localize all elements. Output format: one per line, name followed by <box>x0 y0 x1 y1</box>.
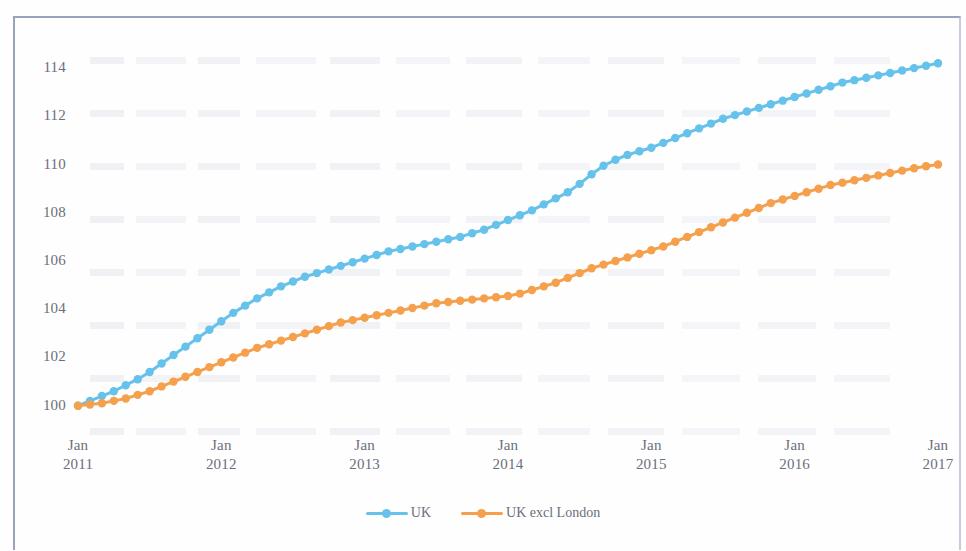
data-point-marker <box>779 195 787 203</box>
data-point-marker <box>468 229 476 237</box>
data-point-marker <box>623 151 631 159</box>
data-point-marker <box>360 313 368 321</box>
data-point-marker <box>540 200 548 208</box>
data-point-marker <box>444 235 452 243</box>
data-point-marker <box>301 273 309 281</box>
data-point-marker <box>396 245 404 253</box>
data-point-marker <box>205 363 213 371</box>
data-point-marker <box>145 368 153 376</box>
data-point-marker <box>145 387 153 395</box>
data-point-marker <box>671 238 679 246</box>
data-point-marker <box>74 402 82 410</box>
data-point-marker <box>325 322 333 330</box>
data-point-marker <box>313 326 321 334</box>
data-point-marker <box>874 171 882 179</box>
data-point-marker <box>826 181 834 189</box>
data-point-marker <box>767 199 775 207</box>
data-point-marker <box>731 111 739 119</box>
data-point-marker <box>480 294 488 302</box>
data-point-marker <box>910 164 918 172</box>
data-point-marker <box>98 392 106 400</box>
data-point-marker <box>468 295 476 303</box>
data-point-marker <box>241 301 249 309</box>
series-uk-excl-london <box>74 160 942 410</box>
data-point-marker <box>492 221 500 229</box>
plot-canvas <box>0 0 966 551</box>
data-point-marker <box>420 240 428 248</box>
data-point-marker <box>575 180 583 188</box>
data-point-marker <box>564 188 572 196</box>
data-point-marker <box>838 178 846 186</box>
data-point-marker <box>516 289 524 297</box>
data-point-marker <box>528 206 536 214</box>
data-point-marker <box>217 358 225 366</box>
data-point-marker <box>719 115 727 123</box>
data-point-marker <box>886 169 894 177</box>
data-point-marker <box>814 184 822 192</box>
data-point-marker <box>110 387 118 395</box>
data-point-marker <box>552 194 560 202</box>
data-point-marker <box>850 76 858 84</box>
data-point-marker <box>802 89 810 97</box>
data-point-marker <box>802 188 810 196</box>
data-point-marker <box>922 61 930 69</box>
data-point-marker <box>372 251 380 259</box>
data-point-marker <box>695 228 703 236</box>
data-point-marker <box>277 282 285 290</box>
data-point-marker <box>396 306 404 314</box>
line-chart: 100102104106108110112114 Jan2011Jan2012J… <box>0 0 966 551</box>
data-point-marker <box>384 309 392 317</box>
data-point-marker <box>432 238 440 246</box>
data-point-marker <box>337 318 345 326</box>
data-point-marker <box>408 242 416 250</box>
data-point-marker <box>504 292 512 300</box>
data-point-marker <box>707 223 715 231</box>
data-point-marker <box>635 250 643 258</box>
data-point-marker <box>540 282 548 290</box>
data-point-marker <box>337 262 345 270</box>
data-point-marker <box>253 294 261 302</box>
data-point-marker <box>767 100 775 108</box>
data-point-marker <box>934 59 942 67</box>
data-point-marker <box>611 257 619 265</box>
legend-item[interactable]: UK <box>366 505 431 521</box>
data-point-marker <box>157 382 165 390</box>
data-point-marker <box>695 124 703 132</box>
data-point-marker <box>134 375 142 383</box>
data-point-marker <box>743 209 751 217</box>
data-point-marker <box>862 74 870 82</box>
legend-line-swatch <box>366 506 408 520</box>
data-point-marker <box>731 213 739 221</box>
data-point-marker <box>707 119 715 127</box>
data-point-marker <box>169 377 177 385</box>
data-point-marker <box>432 299 440 307</box>
data-point-marker <box>599 162 607 170</box>
data-point-marker <box>528 286 536 294</box>
data-point-marker <box>253 344 261 352</box>
data-point-marker <box>289 333 297 341</box>
data-point-marker <box>575 269 583 277</box>
data-point-marker <box>289 277 297 285</box>
legend-marker-icon <box>382 509 391 518</box>
data-point-marker <box>552 279 560 287</box>
data-point-marker <box>886 69 894 77</box>
data-point-marker <box>898 66 906 74</box>
data-point-marker <box>755 204 763 212</box>
data-point-marker <box>193 334 201 342</box>
legend-item[interactable]: UK excl London <box>461 505 600 521</box>
data-point-marker <box>492 293 500 301</box>
data-point-marker <box>647 246 655 254</box>
legend-label: UK excl London <box>506 505 600 521</box>
data-point-marker <box>217 317 225 325</box>
data-point-marker <box>277 336 285 344</box>
data-point-marker <box>265 340 273 348</box>
data-point-marker <box>659 242 667 250</box>
data-point-marker <box>360 254 368 262</box>
data-point-marker <box>349 316 357 324</box>
data-point-marker <box>265 288 273 296</box>
legend-label: UK <box>411 505 431 521</box>
data-point-marker <box>408 304 416 312</box>
data-point-marker <box>122 381 130 389</box>
data-point-marker <box>349 258 357 266</box>
data-point-marker <box>456 297 464 305</box>
